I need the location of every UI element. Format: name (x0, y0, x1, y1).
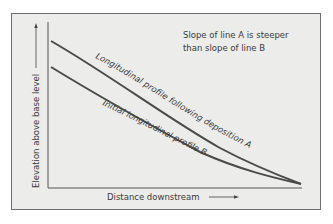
y-axis-label: Elevation above base level (31, 74, 41, 188)
curve-b (51, 67, 301, 184)
curve-a (51, 41, 301, 184)
annotation-line-1: Slope of line A is steeper (183, 30, 289, 40)
y-arrow-head-icon (34, 23, 37, 28)
x-axis-label: Distance downstream (107, 192, 200, 202)
annotation-line-2: than slope of line B (183, 43, 265, 53)
profile-diagram: Longitudinal profile following depositio… (0, 0, 333, 224)
x-arrow-head-icon (234, 195, 239, 198)
